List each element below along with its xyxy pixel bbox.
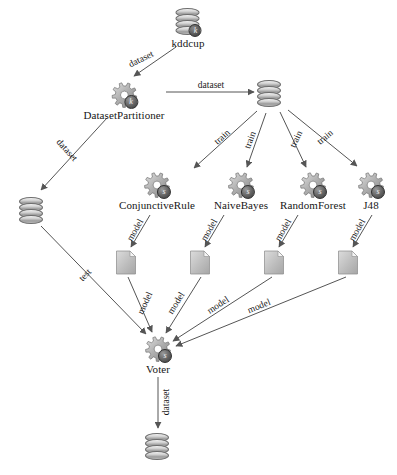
gear-icon-wrap: s — [228, 172, 254, 198]
node-conjunctive_rule[interactable]: sConjunctiveRule — [119, 172, 195, 211]
gear-icon-wrap: s — [144, 172, 170, 198]
gear-badge: s — [371, 185, 385, 199]
database-icon — [18, 197, 44, 225]
edge-label-e2: dataset — [198, 80, 224, 90]
node-test_db[interactable] — [18, 197, 44, 225]
document-icon — [116, 250, 137, 275]
node-label-conjunctive_rule: ConjunctiveRule — [119, 199, 195, 211]
gear-badge: s — [157, 185, 171, 199]
edge-e16 — [176, 277, 346, 346]
document-icon — [264, 250, 285, 275]
document-icon — [190, 250, 211, 275]
node-kddcup[interactable]: kkddcup — [172, 8, 205, 49]
node-label-dataset_partitioner: DatasetPartitioner — [83, 109, 164, 121]
document-icon-wrap — [338, 250, 359, 275]
node-label-voter: Voter — [146, 363, 170, 375]
gear-badge: s — [313, 185, 327, 199]
node-model_cr[interactable] — [116, 250, 137, 275]
gear-badge: s — [158, 349, 172, 363]
database-icon: k — [175, 8, 201, 36]
database-icon — [256, 80, 282, 108]
node-label-j48: J48 — [363, 199, 379, 211]
node-model_nb[interactable] — [190, 250, 211, 275]
gear-icon-wrap: s — [145, 336, 171, 362]
node-j48[interactable]: sJ48 — [358, 172, 384, 211]
database-badge: k — [189, 24, 202, 37]
node-dataset_partitioner[interactable]: kDatasetPartitioner — [83, 82, 164, 121]
database-disc — [257, 98, 281, 107]
node-label-kddcup: kddcup — [172, 37, 205, 49]
gear-badge: k — [124, 95, 138, 109]
document-icon — [338, 250, 359, 275]
database-icon — [144, 433, 170, 461]
document-icon-wrap — [264, 250, 285, 275]
gear-icon-wrap: s — [358, 172, 384, 198]
node-result_db[interactable] — [144, 433, 170, 461]
node-voter[interactable]: sVoter — [145, 336, 171, 375]
document-icon-wrap — [190, 250, 211, 275]
gear-icon-wrap: k — [111, 82, 137, 108]
database-disc — [19, 215, 43, 224]
edge-label-e17: dataset — [161, 389, 171, 415]
node-label-naive_bayes: NaiveBayes — [214, 199, 268, 211]
edge-e12 — [41, 226, 146, 334]
node-model_j48[interactable] — [338, 250, 359, 275]
document-icon-wrap — [116, 250, 137, 275]
node-random_forest[interactable]: sRandomForest — [280, 172, 346, 211]
node-naive_bayes[interactable]: sNaiveBayes — [214, 172, 268, 211]
database-disc — [145, 451, 169, 460]
node-label-random_forest: RandomForest — [280, 199, 346, 211]
node-train_db[interactable] — [256, 80, 282, 108]
gear-badge: s — [241, 185, 255, 199]
workflow-diagram: kkddcupkDatasetPartitionersConjunctiveRu… — [0, 0, 397, 475]
gear-icon-wrap: s — [300, 172, 326, 198]
node-model_rf[interactable] — [264, 250, 285, 275]
